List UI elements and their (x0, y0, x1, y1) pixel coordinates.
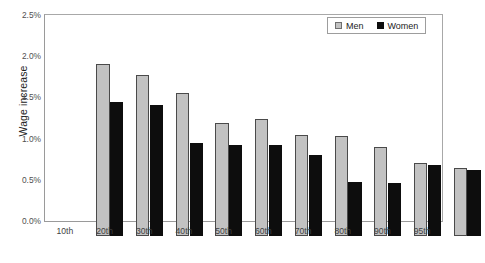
bar-men-90th (414, 163, 427, 236)
bar-group (136, 30, 163, 236)
women-swatch-icon (377, 22, 384, 29)
bar-women-60th (309, 155, 322, 236)
men-swatch-icon (335, 22, 342, 29)
x-tick-label: 90th (374, 226, 391, 236)
legend-entry-women: Women (377, 21, 419, 31)
bar-group (215, 30, 242, 236)
bar-group (295, 30, 322, 236)
x-tick-label: 95th (414, 226, 431, 236)
bar-men-10th (96, 64, 109, 236)
x-tick-label: 70th (295, 226, 312, 236)
x-tick-label: 60th (255, 226, 272, 236)
bar-men-70th (335, 136, 348, 236)
bar-men-20th (136, 75, 149, 237)
bar-men-60th (295, 135, 308, 236)
legend-label-women: Women (388, 21, 419, 31)
bar-women-50th (269, 145, 282, 236)
legend-label-men: Men (346, 21, 364, 31)
x-axis-tick-labels: 10th20th30th40th50th60th70th80th90th95th (45, 226, 442, 242)
bar-women-30th (190, 143, 203, 236)
bar-men-80th (374, 147, 387, 236)
y-tick-label: 0.5% (0, 175, 41, 185)
bar-women-10th (110, 102, 123, 236)
bar-group (374, 30, 401, 236)
bar-group (414, 30, 441, 236)
bar-group (255, 30, 282, 236)
x-tick-label: 10th (56, 226, 73, 236)
bars-layer (90, 30, 485, 236)
bar-group (176, 30, 203, 236)
x-tick-label: 80th (334, 226, 351, 236)
bar-men-50th (255, 119, 268, 236)
bar-men-40th (215, 123, 228, 236)
bar-women-95th (467, 170, 480, 236)
chart-legend: Men Women (327, 17, 426, 34)
bar-women-40th (229, 145, 242, 236)
plot-area (44, 14, 443, 222)
bar-group (335, 30, 362, 236)
y-axis-title: Wage increase (17, 31, 29, 171)
y-tick-label: 2.5% (0, 10, 41, 20)
bar-group (454, 30, 481, 236)
bar-men-30th (176, 93, 189, 236)
x-tick-label: 30th (136, 226, 153, 236)
bar-group (96, 30, 123, 236)
bar-men-95th (454, 168, 467, 236)
x-tick-label: 20th (96, 226, 113, 236)
x-tick-label: 50th (215, 226, 232, 236)
x-tick-label: 40th (176, 226, 193, 236)
y-tick-label: 0.0% (0, 216, 41, 226)
bar-women-20th (150, 105, 163, 236)
legend-entry-men: Men (335, 21, 364, 31)
